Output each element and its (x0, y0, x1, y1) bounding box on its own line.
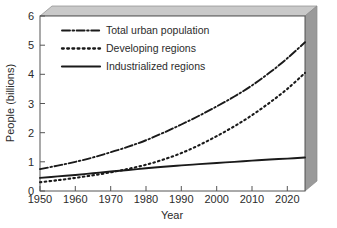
x-tick-label: 1990 (169, 193, 193, 205)
frame-bevel-top (40, 6, 317, 16)
legend-label-developing-regions: Developing regions (106, 42, 196, 54)
chart-figure: 0 1 2 3 4 5 6 1950 1960 1970 1980 1990 2 (0, 0, 337, 228)
y-tick-label: 6 (28, 10, 34, 22)
legend-label-industrialized-regions: Industrialized regions (106, 60, 205, 72)
y-tick-label: 3 (28, 98, 34, 110)
x-tick-label: 1970 (98, 193, 122, 205)
x-tick-label: 2020 (275, 193, 299, 205)
x-tick-label: 2010 (240, 193, 264, 205)
x-tick-label: 1980 (134, 193, 158, 205)
y-tick-label: 5 (28, 39, 34, 51)
y-tick-label: 2 (28, 127, 34, 139)
legend-label-total-urban-population: Total urban population (106, 24, 209, 36)
x-tick-label: 1960 (63, 193, 87, 205)
frame-bevel-right (305, 6, 317, 191)
y-tick-label: 4 (28, 68, 34, 80)
y-tick-label: 1 (28, 156, 34, 168)
y-axis-title: People (billions) (4, 64, 16, 142)
x-tick-label: 1950 (28, 193, 52, 205)
x-tick-label: 2000 (204, 193, 228, 205)
x-axis-title: Year (161, 209, 184, 221)
